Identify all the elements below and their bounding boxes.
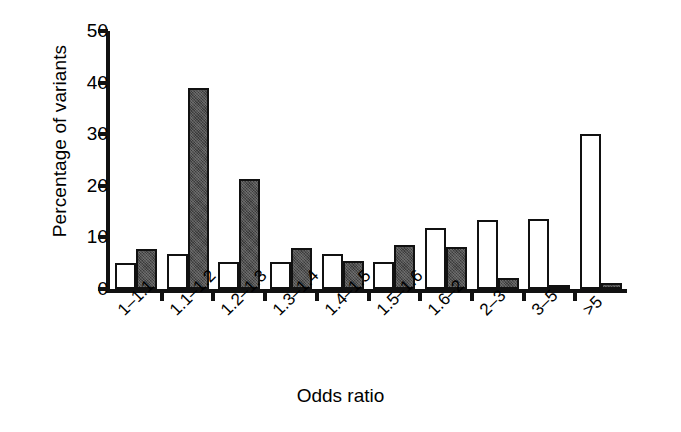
- y-tick-mark: [98, 184, 108, 188]
- y-tick-mark: [98, 235, 108, 239]
- bar-group: [317, 31, 369, 289]
- bar-open: [167, 254, 188, 289]
- x-tick-mark: [522, 291, 526, 301]
- bar-open: [270, 262, 291, 289]
- bar-filled: [498, 278, 519, 289]
- x-tick-mark: [315, 291, 319, 301]
- bar-group: [369, 31, 421, 289]
- bar-open: [322, 254, 343, 289]
- x-tick-mark: [367, 291, 371, 301]
- bar-open: [528, 219, 549, 289]
- bar-group: [472, 31, 524, 289]
- bar-group: [110, 31, 162, 289]
- x-tick-mark: [418, 291, 422, 301]
- x-tick-mark: [573, 291, 577, 301]
- bar-open: [115, 263, 136, 289]
- plot-area: [110, 31, 627, 289]
- bar-open: [425, 228, 446, 289]
- bar-group: [265, 31, 317, 289]
- bar-group: [213, 31, 265, 289]
- y-tick-mark: [98, 29, 108, 33]
- y-tick-mark: [98, 81, 108, 85]
- x-axis-label: Odds ratio: [0, 385, 681, 407]
- x-tick-label: >5: [579, 292, 607, 320]
- bar-group: [162, 31, 214, 289]
- x-tick-mark: [160, 291, 164, 301]
- bar-open: [477, 220, 498, 289]
- bar-group: [575, 31, 627, 289]
- bar-filled: [188, 88, 209, 289]
- y-tick-mark: [98, 287, 108, 291]
- y-tick-mark: [98, 132, 108, 136]
- bar-group: [420, 31, 472, 289]
- bar-open: [580, 134, 601, 289]
- bar-group: [524, 31, 576, 289]
- x-tick-mark: [211, 291, 215, 301]
- bar-filled: [549, 285, 570, 289]
- x-tick-mark: [263, 291, 267, 301]
- bar-open: [373, 262, 394, 289]
- bar-chart-figure: Percentage of variants 01020304050 1–1.1…: [0, 0, 681, 432]
- x-tick-mark: [470, 291, 474, 301]
- bar-filled: [601, 283, 622, 289]
